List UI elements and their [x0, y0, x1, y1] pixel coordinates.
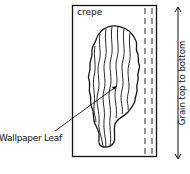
crepe-paper-diagram [0, 0, 190, 174]
leaf-label: Wallpaper Leaf [0, 133, 62, 143]
grain-direction-label: Grain top to bottom [177, 41, 187, 125]
leaf-pointer-line [55, 86, 117, 131]
leaf-veins [93, 27, 130, 146]
leaf-outline [88, 26, 139, 147]
paper-type-label: crepe [77, 7, 102, 17]
